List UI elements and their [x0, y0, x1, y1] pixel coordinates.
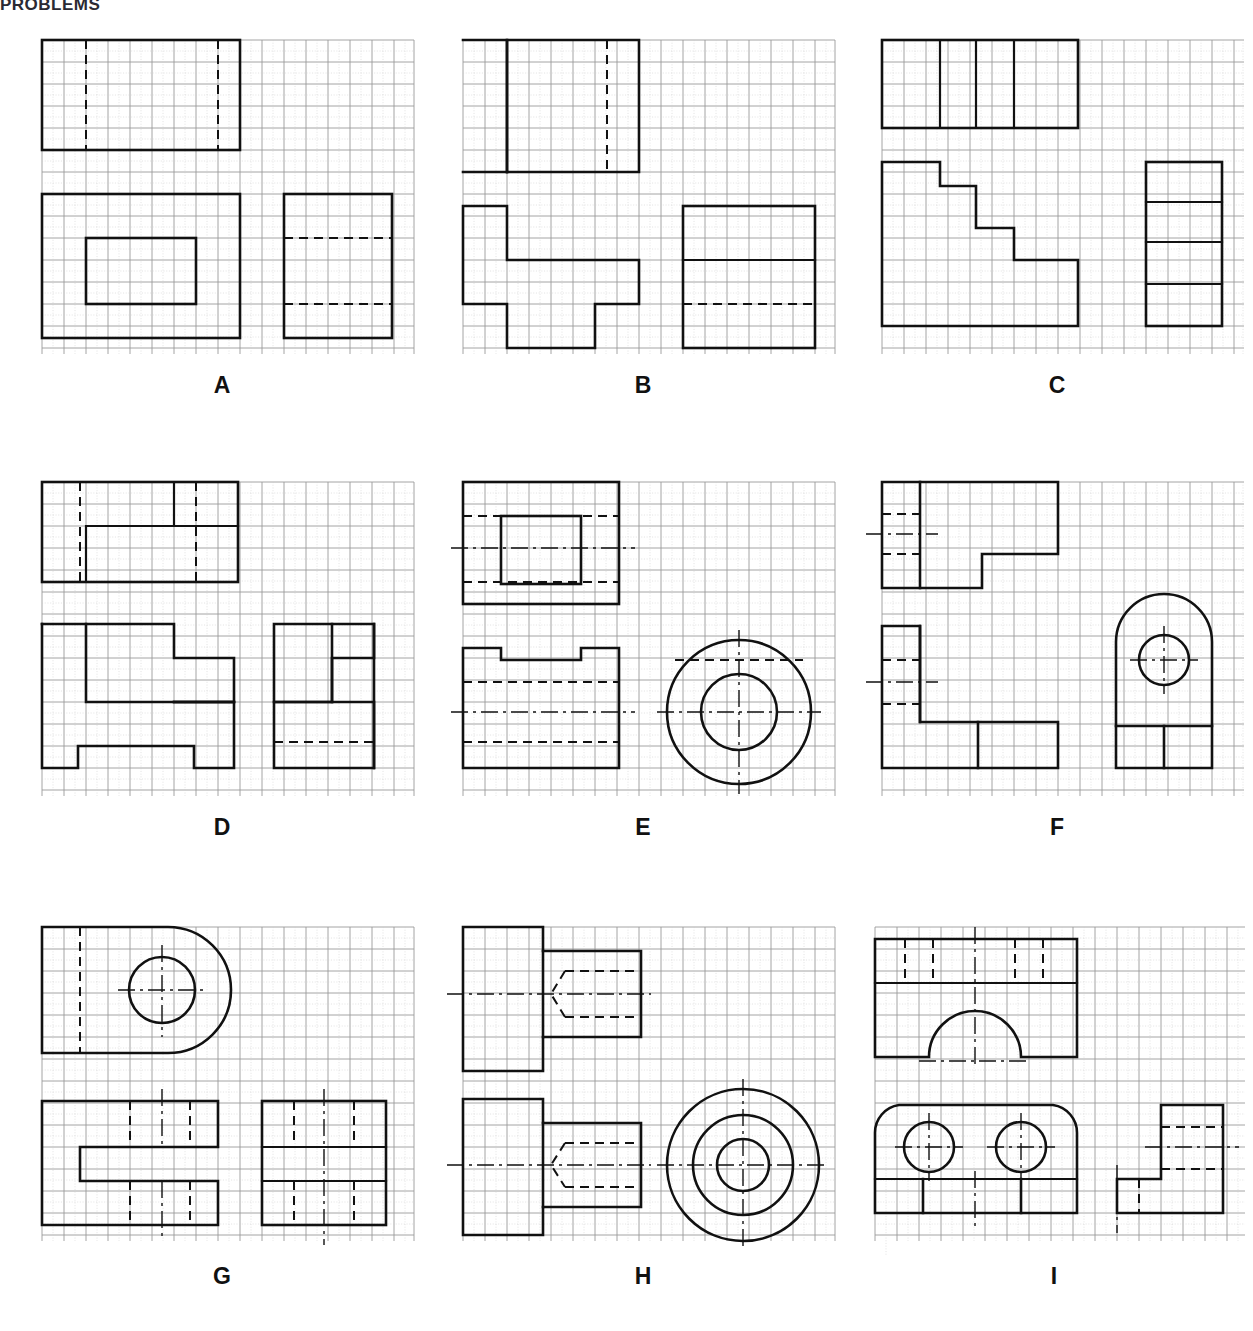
grid-i: [875, 927, 1245, 1255]
panel-e: E: [443, 470, 843, 810]
panel-i-top-view: [875, 1105, 1077, 1227]
panel-label-e: E: [443, 814, 843, 841]
panel-label-h: H: [443, 1263, 843, 1290]
panel-label-f: F: [862, 814, 1252, 841]
panel-b: B: [443, 28, 843, 368]
panel-a: A: [22, 28, 422, 368]
panel-h-front-view: [447, 1099, 651, 1235]
grid-b: [463, 40, 835, 354]
panel-c: C: [862, 28, 1252, 368]
panel-label-g: G: [22, 1263, 422, 1290]
panel-c-front-view: [882, 162, 1078, 326]
panel-f-side-view: [1116, 594, 1212, 768]
panel-c-side-view: [1146, 162, 1222, 326]
panel-label-a: A: [22, 372, 422, 399]
panel-i: I: [855, 915, 1253, 1255]
panel-h: H: [443, 915, 843, 1255]
grid-d: [42, 482, 414, 796]
panel-label-c: C: [862, 372, 1252, 399]
grid-e: [463, 482, 835, 796]
panel-f-front-view: [866, 626, 1058, 768]
panel-g-side-view: [262, 1089, 386, 1245]
worksheet-sheet: PROBLEMS: [0, 0, 1253, 1331]
panel-g: G: [22, 915, 422, 1255]
grid-c: [882, 40, 1244, 354]
panel-label-d: D: [22, 814, 422, 841]
grid-a: [42, 40, 414, 354]
panel-f: F: [862, 470, 1252, 810]
cropped-header-text: PROBLEMS: [0, 0, 200, 10]
panel-e-top-view: [451, 482, 635, 604]
panel-f-top-view: [866, 482, 1058, 588]
panel-label-i: I: [855, 1263, 1253, 1290]
panel-g-top-view: [42, 927, 231, 1053]
panel-d: D: [22, 470, 422, 810]
panel-label-b: B: [443, 372, 843, 399]
panel-d-top-view: [42, 482, 238, 582]
panel-e-front-view: [451, 648, 635, 768]
grid-h: [463, 927, 835, 1241]
grid-f: [882, 482, 1244, 796]
panel-i-front-view: [875, 927, 1077, 1065]
panel-e-side-view: [657, 630, 821, 794]
